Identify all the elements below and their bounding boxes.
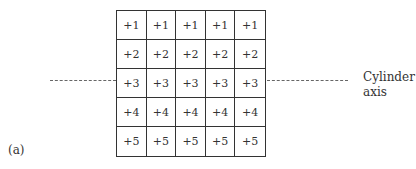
grid-cell: +5	[206, 127, 236, 156]
grid-cell: +3	[176, 69, 206, 98]
grid-cell: +4	[147, 98, 177, 127]
cylinder-axis-label: Cylinder axis	[363, 70, 415, 100]
grid-cell: +1	[117, 11, 147, 40]
grid-cell: +1	[147, 11, 177, 40]
grid-cell: +4	[117, 98, 147, 127]
axis-label-line-1: Cylinder	[363, 70, 415, 85]
grid-cell: +1	[206, 11, 236, 40]
grid-cell: +3	[206, 69, 236, 98]
grid-cell: +4	[235, 98, 265, 127]
grid-cell: +1	[235, 11, 265, 40]
grid-cell: +5	[235, 127, 265, 156]
grid-cell: +1	[176, 11, 206, 40]
grid-cell: +3	[117, 69, 147, 98]
grid-cell: +3	[147, 69, 177, 98]
grid-cell: +2	[176, 40, 206, 69]
grid-cell: +4	[176, 98, 206, 127]
value-grid: +1+1+1+1+1+2+2+2+2+2+3+3+3+3+3+4+4+4+4+4…	[116, 10, 266, 157]
grid-cell: +2	[206, 40, 236, 69]
grid-cell: +2	[147, 40, 177, 69]
panel-label: (a)	[8, 143, 25, 158]
cylinder-axis-line-left	[50, 80, 116, 81]
grid-cell: +5	[117, 127, 147, 156]
cylinder-axis-line-right	[267, 80, 348, 81]
grid-cell: +3	[235, 69, 265, 98]
grid-cell: +5	[147, 127, 177, 156]
grid-cell: +2	[235, 40, 265, 69]
axis-label-line-2: axis	[363, 85, 415, 100]
grid-cell: +4	[206, 98, 236, 127]
grid-cell: +2	[117, 40, 147, 69]
grid-cell: +5	[176, 127, 206, 156]
